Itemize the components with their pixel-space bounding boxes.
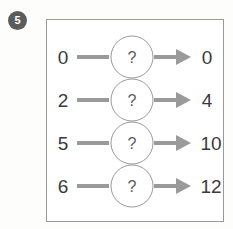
function-machine-panel: 0 ? 0 2 ? 4 5	[46, 19, 224, 222]
function-machine-row-2: 2 ? 4	[47, 78, 225, 122]
operator-label-4[interactable]: ?	[128, 178, 137, 195]
operator-label-3[interactable]: ?	[128, 135, 137, 152]
output-value-4: 12	[200, 176, 221, 197]
arrowhead-icon-1	[176, 49, 191, 65]
table-row: 0 ? 0	[47, 35, 225, 79]
function-machine-row-3: 5 ? 10	[47, 121, 225, 165]
output-value-1: 0	[202, 47, 213, 68]
arrowhead-icon-4	[176, 178, 191, 194]
input-value-3: 5	[58, 133, 69, 154]
input-value-4: 6	[58, 176, 69, 197]
table-row: 2 ? 4	[47, 78, 225, 122]
question-number-badge: 5	[8, 11, 27, 30]
function-machine-row-4: 6 ? 12	[47, 164, 225, 208]
output-value-2: 4	[202, 90, 213, 111]
operator-label-2[interactable]: ?	[128, 92, 137, 109]
operator-label-1[interactable]: ?	[128, 49, 137, 66]
input-value-1: 0	[58, 47, 69, 68]
arrowhead-icon-3	[176, 135, 191, 151]
function-machine-row-1: 0 ? 0	[47, 35, 225, 79]
output-value-3: 10	[200, 133, 221, 154]
table-row: 5 ? 10	[47, 121, 225, 165]
worksheet-root: 5 0 ? 0 2 ? 4	[0, 0, 233, 229]
input-value-2: 2	[58, 90, 69, 111]
arrowhead-icon-2	[176, 92, 191, 108]
table-row: 6 ? 12	[47, 164, 225, 208]
